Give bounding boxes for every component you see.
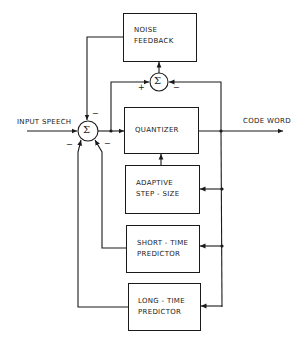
noise-feedback-label-2: FEEDBACK bbox=[134, 36, 174, 47]
short-time-label-1: SHORT - TIME bbox=[137, 238, 188, 249]
long-time-predictor-block: LONG - TIME PREDICTOR bbox=[128, 283, 201, 331]
block-diagram: NOISE FEEDBACK QUANTIZER ADAPTIVE STEP -… bbox=[0, 0, 303, 347]
adaptive-label-1: ADAPTIVE bbox=[136, 178, 173, 189]
sum1-right-sign: − bbox=[104, 139, 111, 148]
quantizer-label: QUANTIZER bbox=[135, 125, 179, 136]
noise-feedback-block: NOISE FEEDBACK bbox=[123, 13, 197, 62]
sum2-minus-sign: − bbox=[173, 83, 180, 92]
noise-feedback-label-1: NOISE bbox=[134, 25, 157, 36]
sum1-sigma-icon: Σ bbox=[83, 124, 90, 135]
short-time-label-2: PREDICTOR bbox=[137, 249, 180, 260]
short-time-predictor-block: SHORT - TIME PREDICTOR bbox=[126, 225, 200, 273]
input-speech-label: INPUT SPEECH bbox=[17, 117, 71, 128]
quantizer-block: QUANTIZER bbox=[124, 107, 199, 154]
long-time-label-2: PREDICTOR bbox=[138, 307, 181, 318]
sum2-sigma-icon: Σ bbox=[154, 75, 161, 86]
long-time-label-1: LONG - TIME bbox=[138, 296, 185, 307]
sum1-top-sign: − bbox=[92, 109, 99, 118]
sum2-plus-sign: + bbox=[138, 83, 145, 92]
sum1-left-sign: − bbox=[66, 140, 73, 149]
code-word-label: CODE WORD bbox=[243, 116, 291, 127]
adaptive-step-size-block: ADAPTIVE STEP - SIZE bbox=[125, 165, 200, 214]
adaptive-label-2: STEP - SIZE bbox=[136, 189, 179, 200]
